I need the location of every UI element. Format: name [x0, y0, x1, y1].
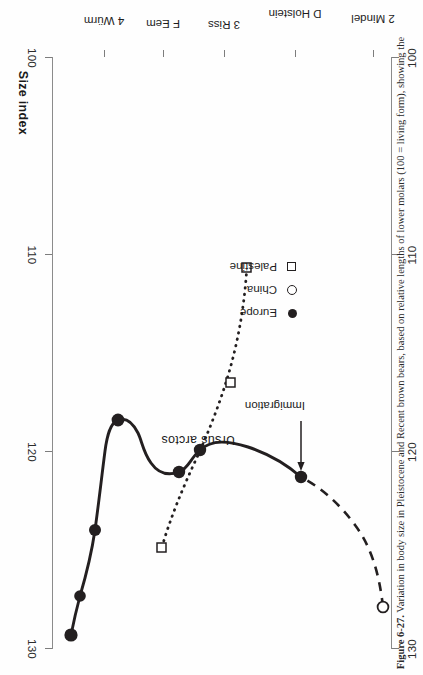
data-point-europe [89, 524, 101, 536]
series-line-china [301, 477, 383, 607]
axis-title-size-index: Size index [16, 71, 30, 135]
category-label-mindel: 2 Mindel [351, 13, 394, 25]
legend-item-china[interactable]: China [230, 284, 298, 296]
tick-label-bottom-120: 120 [406, 442, 418, 462]
category-tick-riss [224, 50, 225, 57]
data-point-palestine [157, 543, 166, 552]
tick-label-top-120: 120 [26, 442, 38, 462]
legend-label-europe: Europe [240, 307, 277, 319]
tick-label-top-110: 110 [26, 246, 38, 265]
data-point-palestine [226, 378, 235, 387]
tick-top-100 [45, 57, 52, 58]
tick-top-130 [45, 648, 52, 649]
tick-label-bottom-100: 100 [406, 48, 418, 68]
series-layer [52, 57, 392, 649]
tick-label-bottom-130: 130 [406, 639, 418, 659]
open-circle-icon [286, 284, 298, 296]
category-label-riss: 3 Riss [208, 19, 240, 31]
tick-label-bottom-110: 110 [406, 246, 418, 265]
immigration-callout-label: Immigration [245, 400, 305, 412]
tick-top-120 [45, 451, 52, 452]
category-tick-wurm [104, 50, 105, 57]
filled-circle-icon [286, 307, 298, 319]
category-label-holstein: D Holstein [268, 8, 321, 20]
figure-caption-label: Figure 6-27. [395, 615, 406, 669]
legend-item-palestine[interactable]: Palestine [230, 261, 298, 273]
legend-item-europe[interactable]: Europe [230, 307, 298, 319]
category-tick-eem [163, 50, 164, 57]
data-point-europe [112, 414, 125, 427]
data-point-europe [74, 590, 86, 602]
species-label: Ursus arctos [161, 433, 235, 447]
category-tick-mindel [373, 50, 374, 57]
data-point-europe [295, 471, 307, 483]
legend-label-china: China [247, 284, 277, 296]
category-label-wurm: 4 Würm [84, 15, 124, 27]
immigration-arrow-icon [297, 421, 304, 471]
figure-page: Size index 130 120 110 100 130 [0, 0, 423, 675]
figure-caption: Figure 6-27. Variation in body size in P… [394, 37, 407, 669]
tick-top-110 [45, 254, 52, 255]
tick-label-top-130: 130 [26, 639, 38, 659]
data-point-europe [173, 466, 185, 478]
category-tick-holstein [295, 50, 296, 57]
data-point-china [378, 602, 389, 613]
chart-legend: Europe China Palestine [230, 261, 298, 319]
category-label-eem: F Eem [146, 18, 180, 30]
open-square-icon [286, 261, 298, 273]
legend-label-palestine: Palestine [230, 261, 277, 273]
rotated-figure-container: Size index 130 120 110 100 130 [0, 0, 423, 675]
series-line-europe [71, 419, 301, 635]
data-point-europe [64, 628, 77, 641]
plot-area: 130 120 110 100 130 120 110 100 [52, 57, 392, 649]
chart-figure: Size index 130 120 110 100 130 [0, 0, 423, 675]
tick-label-top-100: 100 [26, 48, 38, 68]
figure-caption-text: Variation in body size in Pleistocene an… [395, 37, 406, 613]
